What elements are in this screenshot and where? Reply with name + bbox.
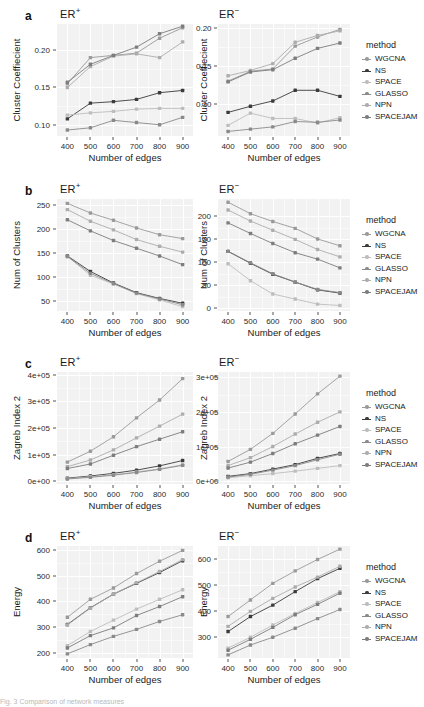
- legend-item-npn[interactable]: NPN: [352, 100, 424, 111]
- series-layer: [57, 546, 193, 658]
- data-point: [316, 458, 319, 461]
- x-tick-mark: [159, 485, 160, 488]
- legend-item-glasso[interactable]: GLASSO: [352, 264, 424, 275]
- legend-item-spacejam[interactable]: SPACEJAM: [352, 112, 424, 123]
- x-axis-label: Number of edges: [89, 152, 162, 163]
- data-point: [66, 81, 69, 84]
- figure-panel-grid: aER+Cluster Coeffiecient0.100.150.204005…: [0, 0, 424, 707]
- subplot-title: ER+: [60, 356, 81, 368]
- legend-item-glasso[interactable]: GLASSO: [352, 611, 424, 622]
- x-tick-mark: [67, 659, 68, 662]
- y-tick-mark: [53, 652, 56, 653]
- x-tick-mark: [317, 659, 318, 662]
- legend-marker-point: [365, 614, 369, 618]
- legend-item-ns[interactable]: NS: [352, 66, 424, 77]
- data-point: [66, 208, 69, 211]
- data-point: [89, 272, 92, 275]
- plot-area: [57, 24, 193, 136]
- series-line: [228, 264, 340, 306]
- series-line: [67, 220, 182, 265]
- x-tick-label: 500: [244, 142, 257, 151]
- y-tick-mark: [214, 239, 217, 240]
- subplot-title: ER+: [60, 183, 81, 195]
- legend-item-spacejam[interactable]: SPACEJAM: [352, 287, 424, 298]
- legend-item-spacejam[interactable]: SPACEJAM: [352, 460, 424, 471]
- data-point: [316, 34, 319, 37]
- data-point: [316, 433, 319, 436]
- data-point: [112, 586, 115, 589]
- data-point: [226, 262, 229, 265]
- y-tick-label: 300: [0, 623, 50, 632]
- legend-marker-point: [365, 451, 369, 455]
- data-point: [135, 581, 138, 584]
- legend-item-space[interactable]: SPACE: [352, 77, 424, 88]
- data-point: [66, 218, 69, 221]
- data-point: [181, 430, 184, 433]
- x-axis-label: Number of edges: [248, 500, 321, 511]
- y-tick-mark: [53, 374, 56, 375]
- data-point: [158, 297, 161, 300]
- data-point: [316, 617, 319, 620]
- series-spacejam: [66, 595, 185, 650]
- data-point: [135, 416, 138, 419]
- legend-label: NPN: [375, 622, 392, 632]
- data-point: [249, 232, 252, 235]
- x-tick-label: 900: [333, 490, 346, 499]
- series-line: [228, 426, 340, 468]
- data-point: [226, 201, 229, 204]
- data-point: [158, 570, 161, 573]
- legend-marker-point: [365, 625, 369, 629]
- data-point: [316, 288, 319, 291]
- series-line: [228, 251, 340, 293]
- series-ns: [66, 89, 185, 121]
- legend-item-glasso[interactable]: GLASSO: [352, 437, 424, 448]
- legend-item-npn[interactable]: NPN: [352, 622, 424, 633]
- x-tick-label: 600: [266, 490, 279, 499]
- legend-label: SPACEJAM: [375, 460, 418, 470]
- x-tick-label: 900: [333, 317, 346, 326]
- legend-label: SPACEJAM: [375, 287, 418, 297]
- legend-item-glasso[interactable]: GLASSO: [352, 89, 424, 100]
- data-point: [89, 229, 92, 232]
- y-tick-label: 400: [0, 597, 50, 606]
- x-tick-mark: [136, 312, 137, 315]
- series-line: [228, 454, 340, 477]
- data-point: [226, 630, 229, 633]
- data-point: [249, 279, 252, 282]
- data-point: [338, 255, 341, 258]
- data-point: [338, 244, 341, 247]
- data-point: [271, 468, 274, 471]
- legend-item-npn[interactable]: NPN: [352, 448, 424, 459]
- x-tick-mark: [182, 659, 183, 662]
- series-line: [228, 251, 340, 292]
- legend-item-wgcna[interactable]: WGCNA: [352, 576, 424, 587]
- data-point: [181, 549, 184, 552]
- legend-item-ns[interactable]: NS: [352, 414, 424, 425]
- data-point: [66, 117, 69, 120]
- data-point: [112, 454, 115, 457]
- legend-item-wgcna[interactable]: WGCNA: [352, 54, 424, 65]
- legend-item-npn[interactable]: NPN: [352, 275, 424, 286]
- x-tick-mark: [159, 312, 160, 315]
- legend-item-space[interactable]: SPACE: [352, 599, 424, 610]
- legend-item-wgcna[interactable]: WGCNA: [352, 402, 424, 413]
- legend-item-space[interactable]: SPACE: [352, 425, 424, 436]
- x-tick-mark: [272, 659, 273, 662]
- data-point: [249, 448, 252, 451]
- legend-key: [362, 416, 371, 423]
- data-point: [271, 432, 274, 435]
- series-glasso: [226, 118, 341, 133]
- legend-item-ns[interactable]: NS: [352, 241, 424, 252]
- x-tick-mark: [295, 485, 296, 488]
- data-point: [338, 608, 341, 611]
- y-tick-mark: [53, 575, 56, 576]
- data-point: [158, 438, 161, 441]
- x-tick-mark: [228, 485, 229, 488]
- legend-item-wgcna[interactable]: WGCNA: [352, 229, 424, 240]
- data-point: [158, 468, 161, 471]
- data-point: [226, 460, 229, 463]
- legend-item-ns[interactable]: NS: [352, 588, 424, 599]
- legend-item-space[interactable]: SPACE: [352, 252, 424, 263]
- legend-item-spacejam[interactable]: SPACEJAM: [352, 634, 424, 645]
- y-tick-label: 150: [196, 235, 211, 244]
